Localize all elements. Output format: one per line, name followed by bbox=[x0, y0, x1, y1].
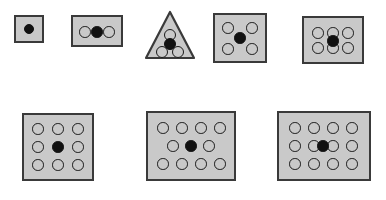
filled-dot bbox=[91, 26, 103, 38]
open-circle bbox=[342, 42, 354, 54]
filled-dot bbox=[164, 38, 176, 50]
open-circle bbox=[289, 122, 301, 134]
open-circle bbox=[72, 141, 84, 153]
shape-group-7 bbox=[146, 111, 236, 181]
filled-dot bbox=[185, 140, 197, 152]
open-circle bbox=[195, 122, 207, 134]
open-circle bbox=[327, 140, 339, 152]
open-circle bbox=[346, 140, 358, 152]
open-circle bbox=[79, 26, 91, 38]
open-circle bbox=[157, 158, 169, 170]
open-circle bbox=[342, 27, 354, 39]
open-circle bbox=[72, 159, 84, 171]
open-circle bbox=[214, 122, 226, 134]
filled-dot bbox=[327, 35, 339, 47]
shape-group-3 bbox=[144, 10, 196, 60]
shape-group-2 bbox=[71, 15, 123, 47]
open-circle bbox=[308, 158, 320, 170]
open-circle bbox=[308, 122, 320, 134]
open-circle bbox=[103, 26, 115, 38]
shape-group-5 bbox=[302, 16, 364, 64]
filled-dot bbox=[234, 32, 246, 44]
open-circle bbox=[222, 43, 234, 55]
open-circle bbox=[203, 140, 215, 152]
open-circle bbox=[52, 159, 64, 171]
open-circle bbox=[346, 122, 358, 134]
open-circle bbox=[195, 158, 207, 170]
open-circle bbox=[176, 158, 188, 170]
open-circle bbox=[32, 141, 44, 153]
open-circle bbox=[222, 22, 234, 34]
open-circle bbox=[327, 158, 339, 170]
open-circle bbox=[32, 159, 44, 171]
filled-dot bbox=[317, 140, 329, 152]
open-circle bbox=[214, 158, 226, 170]
open-circle bbox=[346, 158, 358, 170]
open-circle bbox=[32, 123, 44, 135]
open-circle bbox=[157, 122, 169, 134]
shape-group-4 bbox=[213, 13, 267, 63]
open-circle bbox=[72, 123, 84, 135]
open-circle bbox=[289, 140, 301, 152]
open-circle bbox=[312, 42, 324, 54]
open-circle bbox=[312, 27, 324, 39]
open-circle bbox=[167, 140, 179, 152]
open-circle bbox=[246, 22, 258, 34]
open-circle bbox=[327, 122, 339, 134]
open-circle bbox=[52, 123, 64, 135]
shape-group-6 bbox=[22, 113, 94, 181]
filled-dot bbox=[52, 141, 64, 153]
figure-canvas bbox=[0, 0, 386, 200]
shape-group-8 bbox=[277, 111, 371, 181]
open-circle bbox=[176, 122, 188, 134]
shape-group-1 bbox=[14, 15, 44, 43]
open-circle bbox=[246, 43, 258, 55]
open-circle bbox=[289, 158, 301, 170]
